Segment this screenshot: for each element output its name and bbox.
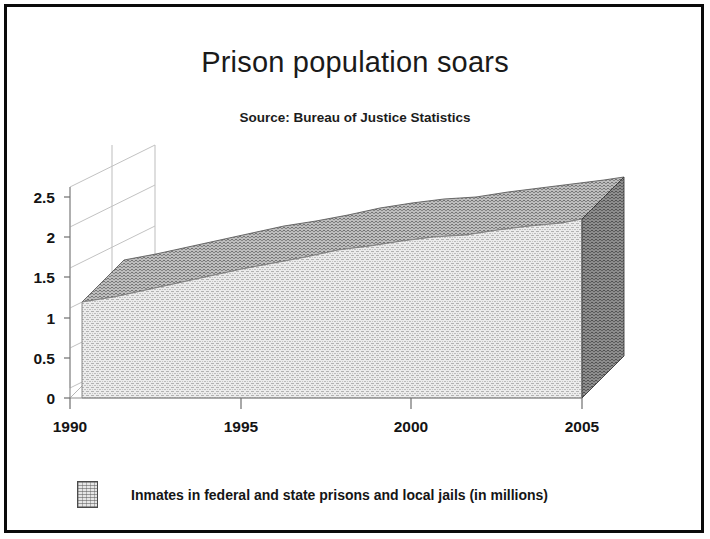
y-tick-label-1: 1 xyxy=(11,310,55,328)
legend-item-label: Inmates in federal and state prisons and… xyxy=(131,487,548,503)
y-tick-label-0: 0 xyxy=(11,390,55,408)
chart-legend: Inmates in federal and state prisons and… xyxy=(77,481,548,508)
y-tick-label-0_5: 0.5 xyxy=(11,350,55,368)
y-tick-label-2: 2 xyxy=(11,229,55,247)
y-tick-label-1_5: 1.5 xyxy=(11,269,55,287)
y-axis-ticks xyxy=(64,197,70,398)
x-tick-label-1990: 1990 xyxy=(35,418,105,436)
series-color-swatch xyxy=(77,481,98,508)
x-tick-label-2005: 2005 xyxy=(547,418,617,436)
chart-plot-area xyxy=(11,11,699,528)
y-tick-label-2_5: 2.5 xyxy=(11,189,55,207)
x-tick-label-1995: 1995 xyxy=(206,418,276,436)
area-series-inmates xyxy=(82,177,624,398)
x-axis-ticks xyxy=(70,398,582,409)
chart-page: Prison population soars Source: Bureau o… xyxy=(11,11,699,528)
x-tick-label-2000: 2000 xyxy=(376,418,446,436)
